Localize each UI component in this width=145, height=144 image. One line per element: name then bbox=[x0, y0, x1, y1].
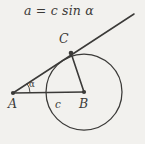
vertex-dot-a bbox=[11, 91, 15, 95]
geometry-diagram bbox=[0, 0, 145, 144]
vertex-label-b: B bbox=[79, 98, 88, 111]
vertex-dot-b bbox=[82, 90, 86, 94]
vertex-label-a: A bbox=[8, 98, 17, 111]
side-label-c: c bbox=[55, 99, 61, 110]
vertex-label-c: C bbox=[59, 33, 69, 46]
segment-bc-radius bbox=[71, 53, 84, 92]
segment-ab bbox=[13, 92, 84, 93]
figure-canvas: a = c sin α A B C c α bbox=[0, 0, 145, 144]
angle-label-alpha: α bbox=[29, 80, 35, 89]
vertex-dot-c bbox=[69, 51, 74, 56]
